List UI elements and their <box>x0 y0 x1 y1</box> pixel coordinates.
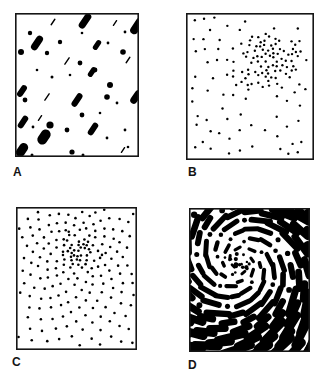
panel-D-label: D <box>188 359 197 371</box>
panel-C-canvas <box>16 207 137 350</box>
panel-C-label: C <box>12 356 21 368</box>
panel-A <box>15 13 139 157</box>
panel-A-canvas <box>15 13 139 157</box>
panel-D-canvas <box>189 208 310 352</box>
panel-B <box>186 13 314 160</box>
panel-C <box>16 207 137 350</box>
panel-B-canvas <box>186 13 314 160</box>
panel-A-label: A <box>13 166 22 178</box>
texture-pattern-figure: A B C D <box>0 0 326 377</box>
panel-B-label: B <box>188 166 197 178</box>
panel-D <box>189 208 310 352</box>
